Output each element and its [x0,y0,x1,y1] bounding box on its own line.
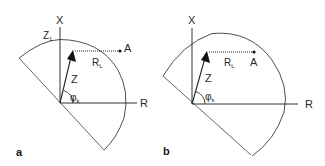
intercept-label-z1: Z1 [43,30,53,42]
panel-b: X R A Z RL φk b [163,14,313,157]
axis-label-r: R [305,98,313,110]
distance-label-rl: RL [92,57,103,69]
arrowhead-icon [201,51,210,63]
panel-letter-a: a [16,146,23,158]
axis-label-x: X [188,14,196,26]
distance-label-rl: RL [224,57,235,69]
point-a-marker [118,49,121,52]
vector-label-z: Z [71,73,78,85]
point-a-marker [252,50,255,53]
angle-label-phi: φk [70,92,80,104]
axis-label-r: R [140,97,148,109]
sector-edge-a [19,58,104,150]
axis-label-x: X [56,14,64,26]
point-label-a: A [124,42,132,54]
sector-edge-b [163,76,251,155]
arrowhead-icon [67,50,76,62]
panel-letter-b: b [163,145,170,157]
sector-arc-b [163,33,286,156]
vector-label-z: Z [205,72,212,84]
panel-a: X R A Z RL φk Z1 a [16,14,148,158]
diagram-canvas: X R A Z RL φk Z1 a X R A [0,0,325,166]
point-label-a: A [250,56,258,68]
angle-label-phi: φk [205,91,215,103]
angle-arc-b [196,92,205,104]
